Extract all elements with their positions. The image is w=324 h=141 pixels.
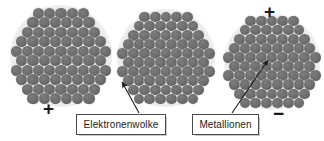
arrow-to-metal-ions (232, 60, 268, 113)
label-text-metallionen: Metallionen (199, 120, 251, 130)
label-box-elektronenwolke[interactable]: Elektronenwolke (76, 114, 166, 135)
label-box-metallionen[interactable]: Metallionen (192, 114, 259, 135)
arrow-to-electron-cloud (122, 82, 139, 113)
diagram-canvas: + + − Elektronenwolke Metallionen (0, 0, 324, 141)
label-text-elektronenwolke: Elektronenwolke (84, 120, 159, 130)
